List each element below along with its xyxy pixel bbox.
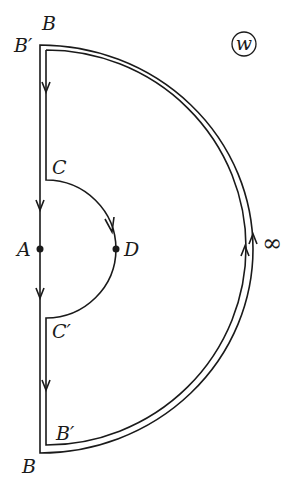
label-b-bottom: B — [21, 455, 36, 477]
arrow-up-inner-arc — [241, 246, 249, 256]
outer-contour — [40, 45, 253, 453]
plane-label: w — [236, 32, 252, 54]
label-c-prime: C′ — [52, 320, 72, 342]
label-b-prime-top: B′ — [13, 34, 33, 56]
label-b-prime-bottom: B′ — [55, 422, 75, 444]
point-d — [113, 246, 120, 253]
contour-diagram: B B′ C A D C′ B′ B w ∞ — [0, 0, 305, 489]
label-b-top: B — [41, 12, 56, 34]
label-d: D — [123, 238, 139, 260]
point-a — [37, 246, 44, 253]
infinity-label: ∞ — [262, 229, 282, 257]
inner-contour — [46, 50, 246, 445]
label-c: C — [52, 156, 67, 178]
label-a: A — [15, 238, 31, 260]
